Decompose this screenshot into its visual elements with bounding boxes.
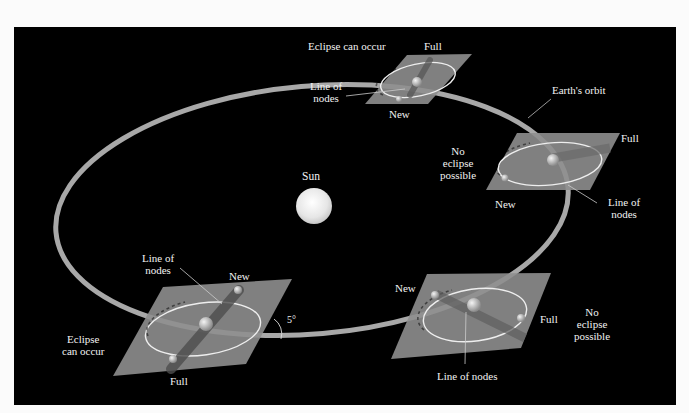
sun-label: Sun: [302, 170, 320, 182]
earth-orbit-label: Earth's orbit: [552, 84, 606, 96]
top-nodes-label: Line of nodes: [310, 80, 342, 104]
moon-orbit-right: [486, 133, 620, 203]
sun-icon: [296, 188, 332, 224]
top-condition-label: Eclipse can occur: [308, 40, 386, 52]
bottom-left-new-label: New: [229, 270, 250, 282]
bottom-left-nodes-label: Line of nodes: [142, 252, 174, 276]
bottom-left-condition-label: Eclipse can occur: [62, 333, 104, 357]
moon-orbit-bottom-left: [113, 268, 292, 376]
right-nodes-label: Line of nodes: [608, 196, 640, 220]
angle-label: 5°: [287, 314, 296, 326]
right-new-label: New: [495, 198, 516, 210]
bottom-right-condition-label: No eclipse possible: [574, 306, 610, 342]
right-condition-label: No eclipse possible: [440, 145, 476, 181]
bottom-right-new-label: New: [395, 282, 416, 294]
bottom-right-nodes-label: Line of nodes: [437, 370, 497, 382]
top-new-label: New: [389, 108, 410, 120]
bottom-left-full-label: Full: [170, 375, 188, 387]
right-full-label: Full: [621, 132, 639, 144]
top-full-label: Full: [424, 40, 442, 52]
bottom-right-full-label: Full: [540, 313, 558, 325]
